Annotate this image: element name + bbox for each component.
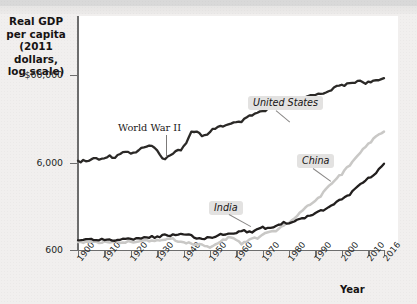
y-tick-label: 6,000 xyxy=(0,157,68,168)
series-line-china xyxy=(78,132,384,248)
y-tick-label-wrap: 600 xyxy=(0,244,68,255)
y-tick-mark xyxy=(70,75,78,76)
leader-line-world-war-2 xyxy=(166,135,167,157)
y-tick-label: 600 xyxy=(0,244,68,255)
y-tick-mark xyxy=(70,250,78,251)
callout-united-states: United States xyxy=(248,96,323,110)
series-line-united-states xyxy=(78,78,384,162)
annotation-world-war-2: World War II xyxy=(118,122,181,133)
y-tick-mark xyxy=(70,163,78,164)
y-tick-label-wrap: $60,000 xyxy=(0,69,68,80)
y-tick-label-wrap: 6,000 xyxy=(0,157,68,168)
callout-india: India xyxy=(209,201,243,215)
callout-china: China xyxy=(297,154,334,168)
y-axis-title-line-3: (2011 dollars, xyxy=(0,40,72,65)
x-axis-title: Year xyxy=(340,284,365,295)
figure-container: Real GDP per capita (2011 dollars, log s… xyxy=(0,0,417,304)
y-axis-title-line-1: Real GDP xyxy=(0,15,72,28)
y-tick-label: $60,000 xyxy=(0,69,68,80)
y-axis-title-line-2: per capita xyxy=(0,28,72,41)
